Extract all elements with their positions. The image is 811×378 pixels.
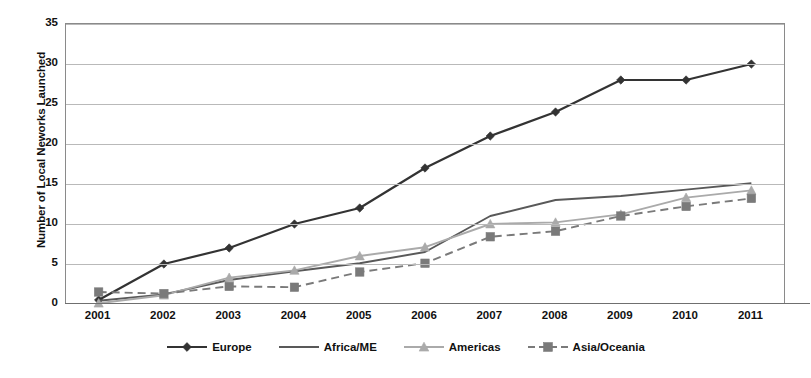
y-tick-label: 30 [30, 57, 58, 69]
legend-swatch-none-icon [278, 340, 320, 354]
data-point-marker [617, 76, 625, 84]
y-tick-label: 10 [30, 217, 58, 229]
legend-item-africa-me[interactable]: Africa/ME [278, 340, 377, 354]
y-tick-label: 0 [30, 297, 58, 309]
legend-item-americas[interactable]: Americas [403, 340, 501, 354]
gridline [66, 24, 784, 25]
x-tick-label: 2003 [198, 309, 258, 321]
gridline [66, 104, 784, 105]
gridline [66, 184, 784, 185]
x-tick-label: 2010 [655, 309, 715, 321]
x-tick-label: 2008 [525, 309, 585, 321]
x-tick-label: 2001 [68, 309, 128, 321]
chart-figure: Number of Local Neworks Launched 0510152… [0, 0, 811, 378]
data-point-marker [747, 194, 755, 202]
x-axis-ticks: 2001200220032004200520062007200820092010… [65, 309, 783, 329]
gridline [66, 64, 784, 65]
gridline [66, 264, 784, 265]
legend-item-europe[interactable]: Europe [166, 340, 252, 354]
data-point-marker [225, 244, 233, 252]
plot-area [65, 23, 785, 304]
data-point-marker [551, 108, 559, 116]
data-point-marker [94, 288, 102, 296]
y-axis-ticks: 05101520253035 [22, 0, 58, 378]
x-tick-label: 2007 [459, 309, 519, 321]
legend-swatch-triangle-icon [403, 340, 445, 354]
x-tick-label: 2005 [329, 309, 389, 321]
y-tick-label: 20 [30, 137, 58, 149]
data-point-marker [356, 268, 364, 276]
legend-item-asia-oceania[interactable]: Asia/Oceania [527, 340, 645, 354]
legend-label: Asia/Oceania [573, 341, 645, 353]
y-tick-label: 25 [30, 97, 58, 109]
data-point-marker [290, 283, 298, 291]
legend-label: Africa/ME [324, 341, 377, 353]
legend-swatch-diamond-icon [166, 340, 208, 354]
data-point-marker [225, 282, 233, 290]
data-point-marker [543, 343, 552, 352]
data-point-marker [486, 233, 494, 241]
data-point-marker [183, 343, 192, 352]
legend-swatch-square-icon [527, 340, 569, 354]
y-tick-label: 35 [30, 17, 58, 29]
x-tick-label: 2011 [720, 309, 780, 321]
series-lines [66, 24, 784, 304]
legend-label: Europe [212, 341, 252, 353]
legend-label: Americas [449, 341, 501, 353]
chart-legend: EuropeAfrica/MEAmericasAsia/Oceania [0, 340, 811, 354]
data-point-marker [682, 202, 690, 210]
data-point-marker [682, 76, 690, 84]
y-tick-label: 5 [30, 257, 58, 269]
data-point-marker [486, 132, 494, 140]
x-tick-label: 2002 [133, 309, 193, 321]
gridline [66, 224, 784, 225]
data-point-marker [617, 212, 625, 220]
data-point-marker [160, 289, 168, 297]
x-tick-label: 2004 [263, 309, 323, 321]
x-axis-line [65, 303, 810, 304]
data-point-marker [551, 227, 559, 235]
gridline [66, 144, 784, 145]
y-tick-label: 15 [30, 177, 58, 189]
x-tick-label: 2006 [394, 309, 454, 321]
x-tick-label: 2009 [590, 309, 650, 321]
